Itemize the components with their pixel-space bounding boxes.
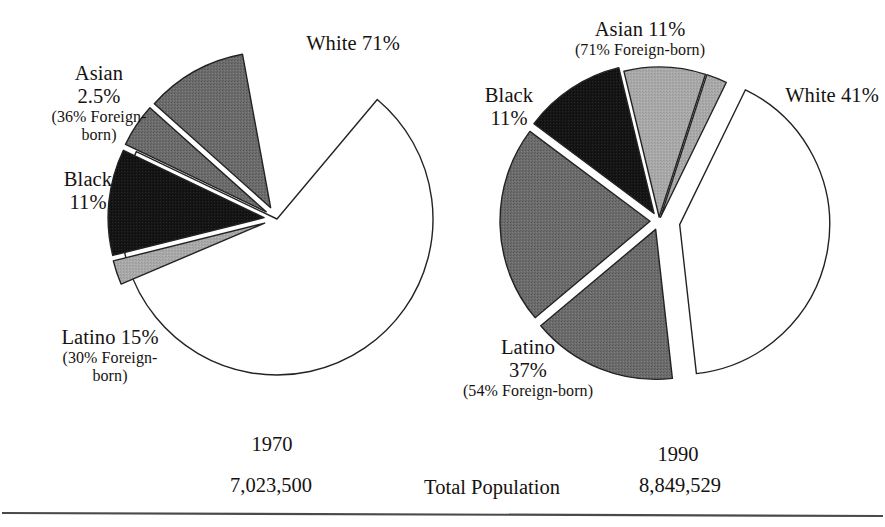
pie-chart-figure: Asian 2.5% (36% Foreign- born) Black 11%… [0, 0, 885, 527]
label-white-1970: White 71% [258, 32, 448, 55]
label-black-1990-name: Black [444, 84, 574, 107]
label-latino-1970: Latino 15% (30% Foreign- born) [10, 326, 210, 385]
label-latino-1990: Latino 37% (54% Foreign-born) [398, 336, 658, 400]
label-asian-1990: Asian 11% (71% Foreign-born) [520, 18, 760, 59]
label-black-1970: Black 11% [18, 168, 158, 214]
label-latino-1970-foreignborn-line2: born) [10, 367, 210, 385]
label-asian-1970-percent: 2.5% [4, 85, 194, 108]
label-latino-1990-percent: 37% [398, 359, 658, 382]
label-latino-1990-foreignborn: (54% Foreign-born) [398, 382, 658, 400]
label-latino-1970-text: Latino 15% [10, 326, 210, 349]
label-white-1970-text: White 71% [258, 32, 448, 55]
label-black-1990: Black 11% [444, 84, 574, 130]
label-latino-1970-foreignborn-line1: (30% Foreign- [10, 349, 210, 367]
label-asian-1970-name: Asian [4, 62, 194, 85]
total-population-1970: 7,023,500 [166, 474, 376, 497]
label-asian-1990-foreignborn: (71% Foreign-born) [520, 41, 760, 59]
label-asian-1970: Asian 2.5% (36% Foreign- born) [4, 62, 194, 144]
bottom-rule [2, 513, 883, 516]
label-black-1990-percent: 11% [444, 107, 574, 130]
total-population-1990: 8,849,529 [570, 474, 790, 497]
label-asian-1990-text: Asian 11% [520, 18, 760, 41]
label-asian-1970-foreignborn-line1: (36% Foreign- [4, 108, 194, 126]
total-population-label: Total Population [382, 476, 602, 499]
year-label-1990: 1990 [578, 443, 778, 466]
label-white-1990-text: White 41% [752, 84, 885, 107]
label-asian-1970-foreignborn-line2: born) [4, 126, 194, 144]
label-black-1970-percent: 11% [18, 191, 158, 214]
label-latino-1990-name: Latino [398, 336, 658, 359]
label-white-1990: White 41% [752, 84, 885, 107]
label-black-1970-name: Black [18, 168, 158, 191]
year-label-1970: 1970 [172, 433, 372, 456]
